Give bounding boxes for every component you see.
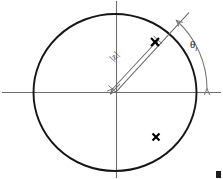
figure-canvas: |zᵢ| θi <box>0 0 223 179</box>
magnitude-dimension-arrow <box>113 40 159 89</box>
angle-label: θi <box>190 39 197 53</box>
theta-subscript: i <box>195 45 197 53</box>
point-marker-on-circle <box>151 38 159 46</box>
angle-arc <box>177 21 208 90</box>
corner-artifact <box>216 171 221 178</box>
unit-circle-diagram <box>0 0 223 179</box>
radius-vector-line <box>116 13 190 93</box>
point-marker-inside <box>153 134 160 141</box>
